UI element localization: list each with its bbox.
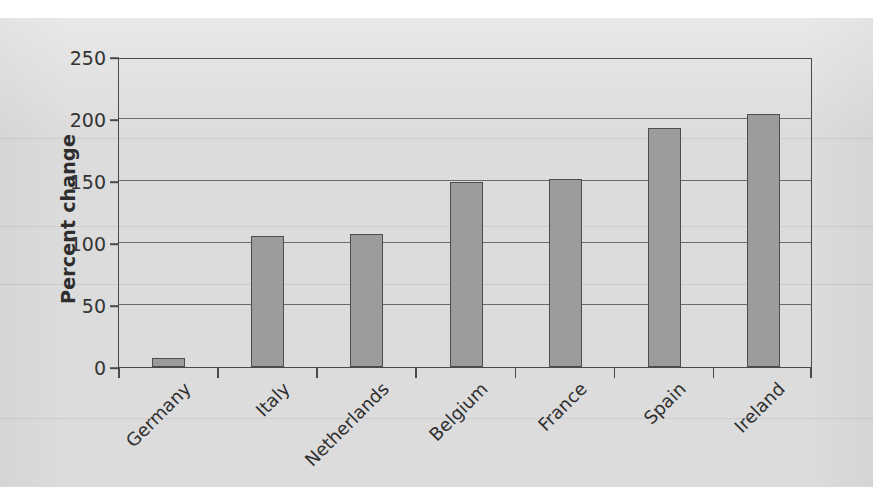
bar-chart: Percent change 0 50 100 150 200 250	[0, 0, 873, 487]
scanned-page: Percent change 0 50 100 150 200 250	[0, 0, 873, 487]
x-tick-label: Netherlands	[300, 378, 392, 470]
x-axis-tick-labels: GermanyItalyNetherlandsBelgiumFranceSpai…	[118, 378, 812, 478]
gridline	[119, 180, 811, 181]
x-tick-mark	[614, 368, 616, 378]
gridline	[119, 118, 811, 119]
x-tick-mark	[217, 368, 219, 378]
plot-area	[118, 58, 812, 368]
bar-belgium	[450, 182, 483, 367]
bar-germany	[152, 358, 185, 367]
bar-ireland	[747, 114, 780, 367]
x-tick-mark	[713, 368, 715, 378]
x-tick-label: France	[534, 378, 591, 435]
x-tick-mark	[810, 368, 812, 378]
x-tick-label: Italy	[251, 378, 293, 420]
x-tick-mark	[515, 368, 517, 378]
x-tick-label: Germany	[121, 378, 194, 451]
y-axis-tick-marks	[0, 58, 130, 368]
x-tick-mark	[415, 368, 417, 378]
bar-spain	[648, 128, 681, 367]
x-tick-mark	[118, 368, 120, 378]
bar-france	[549, 179, 582, 367]
x-tick-label: Ireland	[730, 378, 789, 437]
x-tick-mark	[316, 368, 318, 378]
bar-italy	[251, 236, 284, 367]
x-tick-label: Spain	[640, 378, 690, 428]
x-tick-label: Belgium	[425, 378, 492, 445]
bar-netherlands	[350, 234, 383, 367]
